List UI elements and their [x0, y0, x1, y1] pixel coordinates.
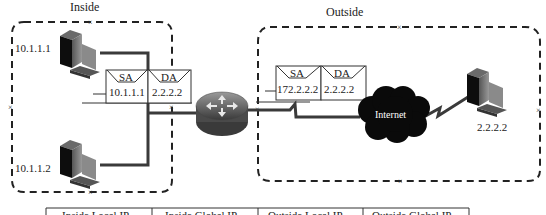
nat-diagram: Inside Outside × × × × × × × × SA DA 10.… [0, 0, 546, 215]
outside-packet-header: SA DA 172.2.2.2 2.2.2.2 [256, 66, 366, 102]
boundary-mark-icon: × [88, 188, 93, 197]
table-header-outside-global: Outside Global IP [372, 209, 451, 215]
host-pc2-icon [60, 140, 100, 189]
table-header-inside-local: Inside Local IP [62, 209, 129, 215]
inside-sa-label: SA [119, 71, 133, 83]
boundary-mark-icon: × [397, 23, 402, 32]
boundary-mark-icon: × [88, 18, 93, 27]
boundary-mark-icon: × [169, 103, 174, 112]
outside-zone-label: Outside [326, 5, 363, 19]
host-server-ip: 2.2.2.2 [477, 121, 507, 133]
inside-packet-header: SA DA 10.1.1.1 2.2.2.2 [82, 70, 192, 103]
table-header-inside-global: Inside Global IP [165, 209, 237, 215]
table-header-outside-local: Outside Local IP [268, 209, 343, 215]
inside-da-value: 2.2.2.2 [152, 86, 182, 98]
inside-sa-value: 10.1.1.1 [109, 86, 145, 98]
outside-da-value: 2.2.2.2 [324, 83, 354, 95]
outside-sa-value: 172.2.2.2 [277, 83, 318, 95]
nat-table-header: Inside Local IP Inside Global IP Outside… [46, 208, 469, 215]
internet-cloud-icon: Internet [358, 86, 430, 143]
boundary-mark-icon: × [536, 106, 541, 115]
host-pc2-ip: 10.1.1.2 [15, 162, 51, 174]
internet-label: Internet [375, 109, 406, 120]
host-server-icon [467, 68, 507, 117]
boundary-mark-icon: × [398, 177, 403, 186]
host-pc1-ip: 10.1.1.1 [15, 42, 51, 54]
host-pc1-icon [60, 30, 100, 79]
router-icon [196, 92, 248, 136]
boundary-mark-icon: × [8, 103, 13, 112]
inside-zone-label: Inside [70, 0, 99, 14]
outside-da-label: DA [334, 67, 350, 79]
inside-da-label: DA [161, 71, 177, 83]
outside-sa-label: SA [290, 67, 304, 79]
